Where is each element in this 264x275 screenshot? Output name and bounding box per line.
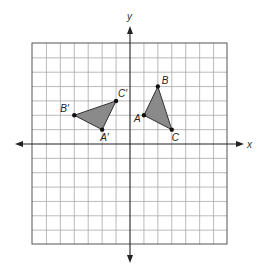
y-axis-down-arrow-icon [127, 255, 133, 263]
vertex-b-point [156, 84, 160, 88]
x-axis: x [15, 139, 253, 150]
vertex-a-point [142, 113, 146, 117]
vertex-b-label: B [162, 75, 169, 86]
x-axis-label: x [246, 139, 253, 150]
vertex-b-prime-label: B′ [60, 103, 70, 114]
coordinate-plane-diagram: x y A B C A′ B′ C′ [0, 0, 264, 275]
vertex-c-prime-point [114, 99, 118, 103]
vertex-c-label: C [172, 132, 180, 143]
x-axis-right-arrow-icon [236, 141, 244, 147]
vertex-b-prime-point [72, 113, 76, 117]
vertex-c-prime-label: C′ [118, 88, 128, 99]
y-axis-up-arrow-icon [127, 26, 133, 34]
vertex-a-label: A [133, 113, 141, 124]
y-axis-label: y [126, 11, 133, 22]
triangle-abc: A B C [133, 75, 180, 143]
x-axis-left-arrow-icon [15, 141, 23, 147]
y-axis: y [126, 11, 133, 263]
vertex-a-prime-label: A′ [99, 132, 110, 143]
